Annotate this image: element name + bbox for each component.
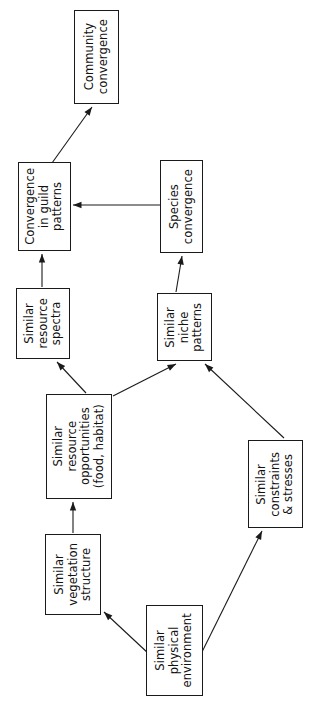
- node-label-line: opportunities: [79, 404, 93, 488]
- edge-guild-to-community: [52, 107, 92, 163]
- node-label-line: Community: [83, 19, 97, 94]
- node-label-line: Similar: [164, 302, 178, 351]
- edge-vegetation-to-opportunities: [70, 502, 76, 533]
- node-similar-vegetation-structure[interactable]: Similarvegetationstructure: [45, 534, 101, 615]
- node-label: Similarnichepatterns: [164, 302, 205, 351]
- edge-opportunities-to-spectra: [57, 362, 86, 393]
- node-label: Communityconvergence: [83, 19, 110, 94]
- node-label-line: Similar: [23, 298, 37, 349]
- node-label-line: spectra: [50, 298, 64, 349]
- node-label-line: vegetation: [66, 543, 80, 606]
- node-label: Similarresourceopportunities(food, habit…: [52, 404, 106, 488]
- node-label: Similarphysicalenvironment: [154, 613, 195, 687]
- node-label-line: constraints: [269, 451, 283, 516]
- node-label: Speciesconvergence: [168, 169, 195, 244]
- node-label-line: resource: [36, 298, 50, 349]
- node-label: Similarconstraints& stresses: [255, 451, 296, 516]
- edge-spectra-to-guild: [39, 254, 45, 287]
- node-similar-physical-environment[interactable]: Similarphysicalenvironment: [146, 605, 203, 696]
- node-similar-niche-patterns[interactable]: Similarnichepatterns: [157, 293, 212, 361]
- node-label-line: Similar: [154, 613, 168, 687]
- node-label-line: Similar: [53, 543, 67, 606]
- flow-diagram: CommunityconvergenceConvergencein guildp…: [0, 0, 321, 713]
- edge-niche-to-species: [176, 256, 184, 292]
- node-label-line: resource: [65, 404, 79, 488]
- node-label-line: environment: [181, 613, 195, 687]
- edge-opportunities-to-niche: [113, 364, 176, 396]
- node-label-line: & stresses: [282, 451, 296, 516]
- node-label-line: convergence: [97, 19, 111, 94]
- node-label-line: convergence: [182, 169, 196, 244]
- arrowhead: [167, 364, 176, 371]
- node-label-line: (food, habitat): [93, 404, 107, 488]
- node-label-line: patterns: [191, 302, 205, 351]
- node-label-line: Similar: [255, 451, 269, 516]
- node-label-line: Species: [168, 169, 182, 244]
- edge-physical-to-constraints: [201, 531, 262, 654]
- node-label-line: structure: [80, 543, 94, 606]
- arrowhead: [70, 502, 76, 511]
- arrowhead: [84, 107, 92, 116]
- edge-constraints-to-niche: [205, 364, 284, 438]
- arrowhead: [39, 254, 45, 263]
- node-label-line: Similar: [52, 404, 66, 488]
- node-label-line: patterns: [51, 168, 65, 245]
- node-similar-resource-spectra[interactable]: Similarresourcespectra: [16, 288, 70, 359]
- node-label-line: in guild: [38, 168, 52, 245]
- node-label: Similarresourcespectra: [23, 298, 64, 349]
- node-label: Convergencein guildpatterns: [24, 168, 65, 245]
- node-community-convergence[interactable]: Communityconvergence: [74, 10, 119, 104]
- edge-species-to-guild: [73, 202, 160, 208]
- node-label-line: niche: [178, 302, 192, 351]
- arrowhead: [177, 256, 183, 265]
- node-similar-constraints-stresses[interactable]: Similarconstraints& stresses: [248, 440, 303, 528]
- node-convergence-in-guild-patterns[interactable]: Convergencein guildpatterns: [18, 162, 71, 251]
- edge-physical-to-vegetation: [104, 612, 149, 654]
- node-label-line: Convergence: [24, 168, 38, 245]
- arrowhead: [73, 202, 82, 208]
- arrowhead: [255, 531, 262, 540]
- node-label: Similarvegetationstructure: [53, 543, 94, 606]
- node-similar-resource-opportunities[interactable]: Similarresourceopportunities(food, habit…: [46, 394, 112, 499]
- node-species-convergence[interactable]: Speciesconvergence: [160, 160, 203, 253]
